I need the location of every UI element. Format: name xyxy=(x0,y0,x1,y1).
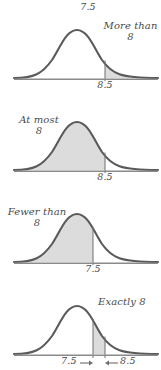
panel-exactly-8: Exactly 8 7.5 8.5 xyxy=(0,292,161,370)
annotation-at-most-8: At most 8 xyxy=(8,114,70,136)
annotation-exactly-8: Exactly 8 xyxy=(98,296,161,307)
normal-curve xyxy=(14,306,158,354)
tick-label-8-5: 8.5 xyxy=(90,172,120,183)
annotation-line-2: 8 xyxy=(36,125,42,136)
annotation-line-2: 8 xyxy=(127,31,133,42)
shaded-region-interval xyxy=(14,306,158,354)
tick-label-7-5: 7.5 xyxy=(61,356,77,367)
panel-more-than-8: More than 8 8.5 xyxy=(0,16,161,90)
annotation-fewer-than-8: Fewer than 8 xyxy=(2,206,72,228)
annotation-line-1: More than xyxy=(104,20,158,31)
annotation-more-than-8: More than 8 xyxy=(100,20,161,42)
figure-container: 7.5 More than 8 8.5 xyxy=(0,0,161,370)
panel-fewer-than-8: Fewer than 8 7.5 xyxy=(0,200,161,274)
top-axis-label: 7.5 xyxy=(72,2,104,13)
annotation-line-2: 8 xyxy=(34,217,40,228)
annotation-line-1: Fewer than xyxy=(8,206,67,217)
panel-at-most-8: At most 8 8.5 xyxy=(0,108,161,182)
arrow-head-left xyxy=(89,361,93,366)
arrow-head-right xyxy=(105,361,109,366)
tick-label-8-5: 8.5 xyxy=(120,356,136,367)
annotation-line-1: At most xyxy=(19,114,59,125)
tick-label-8-5: 8.5 xyxy=(90,80,120,91)
tick-label-7-5: 7.5 xyxy=(78,264,108,275)
annotation-line-1: Exactly 8 xyxy=(98,296,146,307)
